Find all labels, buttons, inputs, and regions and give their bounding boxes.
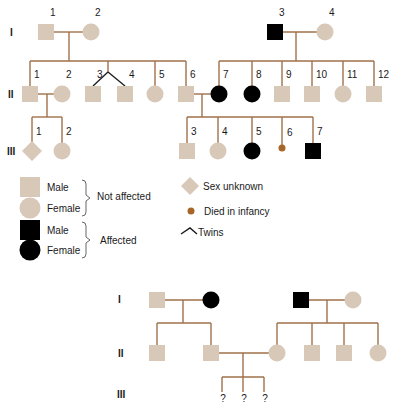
pedigree-figure: IIIIII12341234567891011121234567MaleFema… xyxy=(0,0,408,405)
individual-II-11-circle-symbol xyxy=(335,86,352,103)
individual-b-I-4-circle-symbol xyxy=(345,292,362,309)
individual-II-2-circle-symbol xyxy=(54,86,71,103)
legend-label: Sex unknown xyxy=(203,181,263,192)
individual-number: 4 xyxy=(329,7,335,18)
legend-sex-unknown-diamond-icon xyxy=(181,177,199,195)
individual-number: 3 xyxy=(279,7,285,18)
individual-number: 4 xyxy=(129,69,135,80)
legend-label: Male xyxy=(47,225,69,236)
individual-II-4-square-symbol xyxy=(117,86,133,102)
individual-I-1-square-symbol xyxy=(38,24,54,40)
individual-II-7-circle-symbol xyxy=(211,86,228,103)
individual-number: 2 xyxy=(95,7,101,18)
individual-II-10-square-symbol xyxy=(304,86,320,102)
individual-II-8-circle-symbol xyxy=(244,86,261,103)
individual-number: 7 xyxy=(223,69,229,80)
individual-number: 1 xyxy=(50,7,56,18)
individual-III-4-circle-symbol xyxy=(210,143,227,160)
individual-number: 2 xyxy=(66,126,72,137)
individual-b-II-4-square-symbol xyxy=(304,345,320,361)
twins-line xyxy=(108,72,125,86)
individual-number: 11 xyxy=(347,69,358,80)
individual-III-1-diamond-symbol xyxy=(22,141,42,161)
legend-circle-symbol xyxy=(20,198,41,219)
legend-brace xyxy=(82,222,90,258)
individual-number: 8 xyxy=(256,69,262,80)
individual-number: 4 xyxy=(222,126,228,137)
individual-number: 1 xyxy=(34,69,40,80)
unknown-child-question-mark: ? xyxy=(262,393,268,404)
individual-I-4-circle-symbol xyxy=(317,24,334,41)
legend-label: Twins xyxy=(198,227,224,238)
individual-III-3-square-symbol xyxy=(179,143,195,159)
individual-I-2-circle-symbol xyxy=(83,24,100,41)
individual-number: 9 xyxy=(286,69,292,80)
individual-number: 12 xyxy=(378,69,390,80)
individual-number: 2 xyxy=(66,69,72,80)
individual-number: 3 xyxy=(97,69,103,80)
legend-label: Male xyxy=(47,182,69,193)
generation-label: II xyxy=(118,348,124,359)
individual-b-II-2-square-symbol xyxy=(203,345,219,361)
individual-number: 1 xyxy=(36,126,42,137)
generation-label: II xyxy=(8,89,14,100)
individual-b-I-1-square-symbol xyxy=(149,292,165,308)
individual-number: 6 xyxy=(287,127,293,138)
legend-infant-death-dot-icon xyxy=(188,208,195,215)
legend-group-label: Affected xyxy=(100,235,137,246)
individual-b-II-3-circle-symbol xyxy=(269,345,286,362)
legend-circle-symbol xyxy=(20,240,41,261)
individual-III-7-square-symbol xyxy=(305,143,321,159)
generation-label: III xyxy=(117,389,126,400)
individual-number: 5 xyxy=(159,69,165,80)
individual-II-1-square-symbol xyxy=(22,86,38,102)
individual-II-5-circle-symbol xyxy=(147,86,164,103)
individual-I-3-square-symbol xyxy=(267,24,283,40)
individual-number: 10 xyxy=(316,69,328,80)
legend-square-symbol xyxy=(20,177,40,197)
individual-b-II-6-circle-symbol xyxy=(370,345,387,362)
legend-label: Died in infancy xyxy=(204,206,270,217)
individual-II-9-square-symbol xyxy=(274,86,290,102)
individual-b-II-1-square-symbol xyxy=(149,345,165,361)
legend-square-symbol xyxy=(20,220,40,240)
individual-II-6-square-symbol xyxy=(178,86,194,102)
individual-b-II-5-square-symbol xyxy=(336,345,352,361)
legend-group-label: Not affected xyxy=(97,191,151,202)
unknown-child-question-mark: ? xyxy=(220,393,226,404)
individual-II-3-square-symbol xyxy=(85,86,101,102)
legend-brace xyxy=(82,180,90,216)
generation-label: III xyxy=(7,146,16,157)
pedigree-canvas: IIIIII12341234567891011121234567MaleFema… xyxy=(0,0,408,405)
individual-b-I-2-circle-symbol xyxy=(203,292,220,309)
legend-twins-icon xyxy=(181,228,197,234)
individual-b-I-3-square-symbol xyxy=(293,292,309,308)
individual-III-6-infant-death-dot xyxy=(279,145,286,152)
unknown-child-question-mark: ? xyxy=(241,393,247,404)
individual-III-2-circle-symbol xyxy=(54,143,71,160)
individual-number: 6 xyxy=(190,69,196,80)
individual-number: 5 xyxy=(256,126,262,137)
individual-number: 7 xyxy=(317,126,323,137)
legend-label: Female xyxy=(47,203,81,214)
individual-number: 3 xyxy=(191,126,197,137)
legend-label: Female xyxy=(47,245,81,256)
individual-II-12-square-symbol xyxy=(366,86,382,102)
generation-label: I xyxy=(10,27,13,38)
generation-label: I xyxy=(118,294,121,305)
individual-III-5-circle-symbol xyxy=(244,143,261,160)
